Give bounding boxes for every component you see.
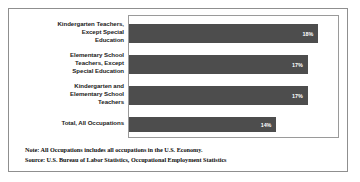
chart-figure: Kindergarten Teachers, Except Special Ed… xyxy=(8,8,348,172)
category-label-line: Elementary School xyxy=(70,51,124,59)
bar-kindergarten-teachers: 18% xyxy=(129,24,318,43)
bar-value-label: 17% xyxy=(292,62,308,68)
category-label-line: Elementary School xyxy=(70,90,124,98)
bar-row: 18% xyxy=(129,24,338,43)
category-label-elementary-school-teachers: Elementary School Teachers, Except Speci… xyxy=(70,51,127,75)
category-label-row: Elementary School Teachers, Except Speci… xyxy=(13,49,127,77)
plot-area: 18% 17% 17% 14% xyxy=(128,15,339,138)
category-label-line: Teachers, Except xyxy=(70,59,124,67)
category-label-line: Kindergarten and xyxy=(70,82,124,90)
category-label-kindergarten-teachers: Kindergarten Teachers, Except Special Ed… xyxy=(57,20,127,44)
bar-value-label: 14% xyxy=(261,122,277,128)
category-label-line: Total, All Occupations xyxy=(61,119,124,127)
category-label-kindergarten-and-elementary: Kindergarten and Elementary School Teach… xyxy=(70,82,127,106)
category-label-line: Except Special xyxy=(57,28,124,36)
category-label-row: Kindergarten and Elementary School Teach… xyxy=(13,80,127,108)
category-axis-labels: Kindergarten Teachers, Except Special Ed… xyxy=(13,15,127,138)
bar-row: 17% xyxy=(129,86,338,105)
category-label-line: Kindergarten Teachers, xyxy=(57,20,124,28)
category-label-row: Total, All Occupations xyxy=(13,111,127,135)
category-label-line: Teachers xyxy=(70,98,124,106)
footnote-source: Source: U.S. Bureau of Labor Statistics,… xyxy=(25,155,335,165)
footnotes: Note: All Occupations includes all occup… xyxy=(25,145,335,164)
bar-value-label: 18% xyxy=(303,31,319,37)
bar-row: 17% xyxy=(129,55,338,74)
bar-elementary-school-teachers: 17% xyxy=(129,55,308,74)
category-label-total-all-occupations: Total, All Occupations xyxy=(61,119,127,127)
bar-row: 14% xyxy=(129,117,338,132)
category-label-line: Education xyxy=(57,36,124,44)
bar-value-label: 17% xyxy=(292,93,308,99)
category-label-row: Kindergarten Teachers, Except Special Ed… xyxy=(13,18,127,46)
bar-kindergarten-and-elementary: 17% xyxy=(129,86,308,105)
footnote-note: Note: All Occupations includes all occup… xyxy=(25,145,335,155)
bar-total-all-occupations: 14% xyxy=(129,117,276,132)
category-label-line: Special Education xyxy=(70,67,124,75)
